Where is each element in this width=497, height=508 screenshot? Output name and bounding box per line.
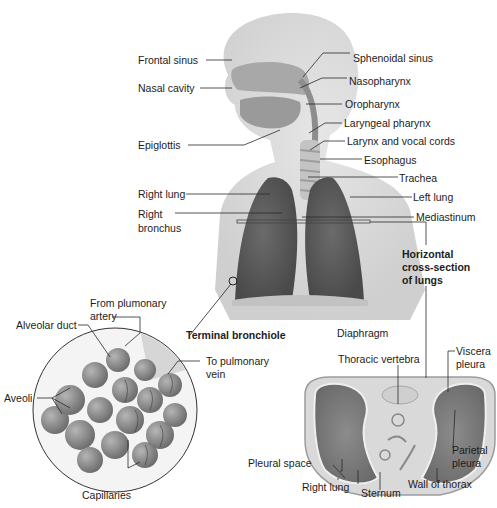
label-right-lung: Right lung (138, 188, 185, 200)
label-laryngeal-pharynx: Laryngeal pharynx (344, 117, 430, 129)
label-parietal-pleura-line2: pleura (452, 457, 481, 469)
label-wall-of-thorax: Wall of thorax (408, 478, 472, 490)
label-frontal-sinus: Frontal sinus (138, 54, 198, 66)
label-nasal-cavity: Nasal cavity (138, 82, 195, 94)
cross-section-title-line1: Horizontal (402, 248, 453, 260)
label-to-pulmonary-vein-line1: To pulmonary (206, 355, 269, 367)
label-diaphragm: Diaphragm (337, 327, 388, 339)
label-capillaries: Capillaries (82, 489, 131, 501)
alveoli-inset (33, 325, 197, 492)
cross-section-title-line2: cross-section (402, 261, 470, 273)
label-pleural-space: Pleural space (248, 457, 312, 469)
label-esophagus: Esophagus (364, 154, 417, 166)
label-aveoli: Aveoli (4, 392, 32, 404)
label-sternum: Sternum (361, 487, 401, 499)
label-to-pulmonary-vein-line2: vein (206, 368, 225, 380)
label-alveolar-duct: Alveolar duct (16, 319, 77, 331)
label-oropharynx: Oropharynx (345, 98, 400, 110)
label-nasopharynx: Nasopharynx (349, 75, 411, 87)
label-viscera-pleura-line2: pleura (456, 358, 485, 370)
label-terminal-bronchiole: Terminal bronchiole (186, 329, 286, 341)
label-mediastinum: Mediastinum (416, 211, 476, 223)
label-from-pulmonary-artery-line2: artery (90, 310, 117, 322)
cross-section-title-line3: of lungs (402, 274, 443, 286)
label-thoracic-vertebra: Thoracic vertebra (338, 353, 420, 365)
label-viscera-pleura-line1: Viscera (456, 345, 491, 357)
label-from-pulmonary-artery-line1: From plumonary (90, 297, 166, 309)
label-left-lung: Left lung (413, 191, 453, 203)
label-epiglottis: Epiglottis (138, 139, 181, 151)
label-parietal-pleura-line1: Parietal (452, 444, 488, 456)
label-cs-right-lung: Right lung (302, 481, 349, 493)
label-right-bronchus-line2: bronchus (138, 222, 181, 234)
label-right-bronchus-line1: Right (138, 208, 163, 220)
label-trachea: Trachea (399, 172, 437, 184)
label-sphenoidal-sinus: Sphenoidal sinus (353, 52, 433, 64)
label-larynx-vocal-cords: Larynx and vocal cords (347, 135, 455, 147)
